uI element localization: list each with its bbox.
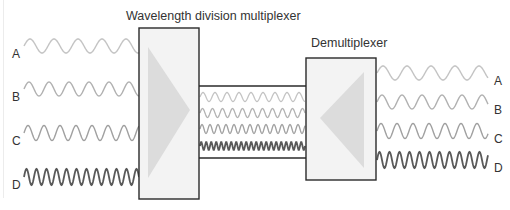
output-waves — [377, 66, 488, 168]
output-wave-d — [377, 152, 488, 168]
wdm-diagram — [0, 0, 510, 210]
input-wave-c — [24, 126, 139, 141]
output-wave-b — [377, 95, 488, 109]
multiplexer-box — [139, 28, 199, 199]
input-waves — [24, 39, 139, 185]
output-wave-a — [377, 66, 488, 80]
output-wave-c — [377, 124, 488, 139]
fiber-wave-b — [200, 109, 305, 118]
input-wave-d — [24, 169, 139, 185]
demultiplexer-box — [306, 58, 376, 180]
input-wave-b — [24, 82, 139, 96]
fiber-wave-c — [200, 125, 305, 134]
input-wave-a — [24, 39, 139, 53]
fiber-wave-a — [200, 93, 305, 102]
fiber-wave-d — [200, 142, 305, 150]
multiplexed-waves — [200, 93, 305, 150]
